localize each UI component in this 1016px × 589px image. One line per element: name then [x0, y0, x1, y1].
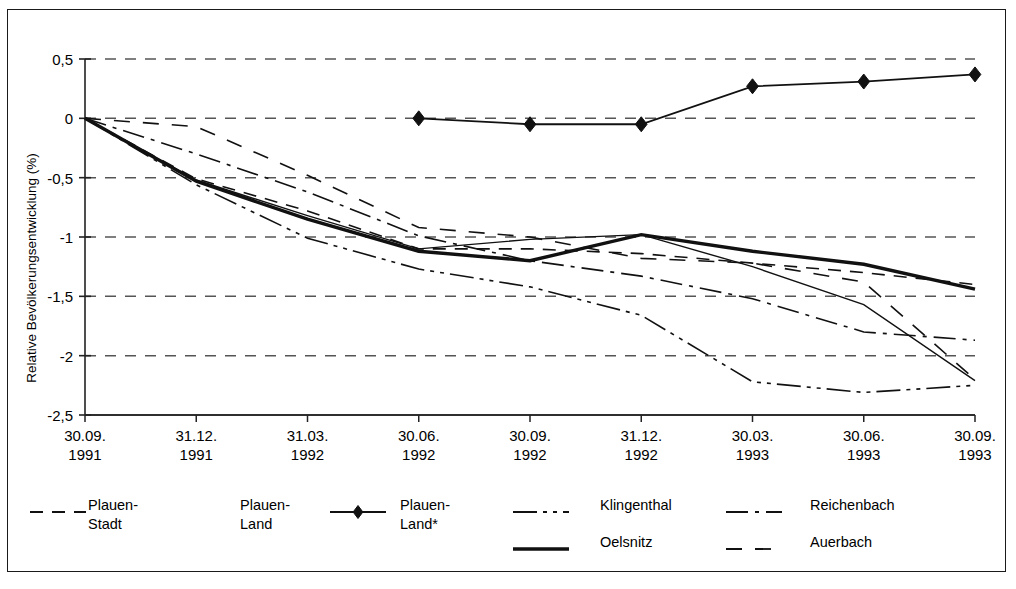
series-line: [85, 118, 975, 392]
x-tick-label-year: 1992: [513, 446, 546, 463]
legend-label[interactable]: Auerbach: [810, 534, 872, 550]
x-tick-label: 30.06.: [398, 427, 440, 444]
series-line: [85, 118, 975, 289]
x-tick-label-year: 1991: [180, 446, 213, 463]
legend-label[interactable]: Klingenthal: [600, 497, 672, 513]
population-development-line-chart: 0,50-0,5-1-1,5-2-2,5 Relative Bevölkerun…: [0, 0, 1016, 589]
chart-svg: 0,50-0,5-1-1,5-2-2,5 Relative Bevölkerun…: [0, 0, 1016, 589]
legend-label-line2[interactable]: Stadt: [88, 516, 122, 532]
x-tick-label-year: 1993: [736, 446, 769, 463]
y-tick-label: -0,5: [47, 170, 73, 187]
x-tick-label-year: 1992: [625, 446, 658, 463]
x-tick-label-year: 1993: [847, 446, 880, 463]
y-axis-title: Relative Bevölkerungsentwicklung (%): [24, 153, 39, 383]
x-tick-label: 30.09.: [509, 427, 551, 444]
diamond-marker: [858, 74, 870, 89]
legend-label[interactable]: Plauen-: [88, 497, 138, 513]
y-tick-label: -1: [60, 229, 73, 246]
y-tick-label: 0: [65, 110, 73, 127]
y-tick-label: -2: [60, 348, 73, 365]
diamond-marker: [747, 79, 759, 94]
data-series-group: [85, 67, 981, 393]
x-tick-label: 31.12.: [175, 427, 217, 444]
x-tick-label: 31.03.: [287, 427, 329, 444]
x-tick-label-year: 1992: [291, 446, 324, 463]
legend-label-line2[interactable]: Land: [240, 516, 272, 532]
series-line: [419, 74, 975, 124]
x-tick-label: 30.09.: [954, 427, 996, 444]
y-axis-title-group: Relative Bevölkerungsentwicklung (%): [24, 153, 39, 383]
x-axis-tick-labels: 30.09.199131.12.199131.03.199230.06.1992…: [64, 427, 996, 463]
x-tick-label-year: 1991: [68, 446, 101, 463]
legend-label[interactable]: Reichenbach: [810, 497, 895, 513]
x-tick-label: 31.12.: [620, 427, 662, 444]
y-tick-label: -1,5: [47, 288, 73, 305]
chart-legend: Plauen-StadtPlauen-LandPlauen-Land*Kling…: [30, 497, 895, 550]
diamond-marker: [413, 111, 425, 126]
legend-label[interactable]: Plauen-: [400, 497, 450, 513]
x-axis-ticks-group: [85, 415, 975, 422]
x-tick-label-year: 1993: [958, 446, 991, 463]
x-tick-label-year: 1992: [402, 446, 435, 463]
x-tick-label: 30.09.: [64, 427, 106, 444]
legend-label[interactable]: Oelsnitz: [600, 534, 652, 550]
y-tick-label: -2,5: [47, 407, 73, 424]
diamond-marker: [969, 67, 981, 82]
y-tick-label: 0,5: [52, 51, 73, 68]
x-tick-label: 30.03.: [732, 427, 774, 444]
legend-diamond-marker: [353, 506, 363, 519]
legend-label-line2[interactable]: Land*: [400, 516, 438, 532]
x-tick-label: 30.06.: [843, 427, 885, 444]
legend-label[interactable]: Plauen-: [240, 497, 290, 513]
series-line: [85, 118, 975, 340]
